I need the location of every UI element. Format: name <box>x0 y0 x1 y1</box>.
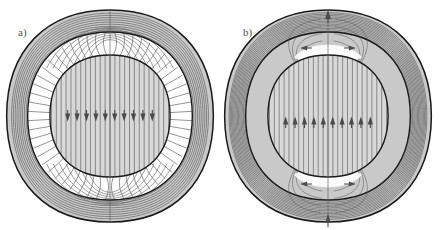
field-diagram-svg: a)b) <box>0 0 440 230</box>
panel-a: a) <box>7 10 214 222</box>
figure-container: a)b) <box>0 0 440 230</box>
panel-label-b: b) <box>243 26 253 39</box>
panel-label-a: a) <box>18 26 27 39</box>
panel-b: b) <box>225 10 432 227</box>
